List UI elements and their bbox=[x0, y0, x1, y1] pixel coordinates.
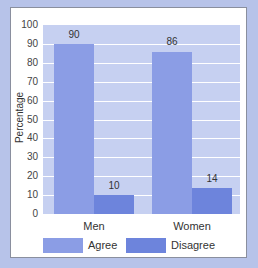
y-tick-50: 50 bbox=[14, 114, 38, 125]
y-tick-30: 30 bbox=[14, 151, 38, 162]
bar-men-disagree bbox=[94, 195, 134, 214]
label-women-disagree: 14 bbox=[192, 173, 232, 184]
bar-men-agree bbox=[54, 44, 94, 214]
y-tick-20: 20 bbox=[14, 170, 38, 181]
legend-label-disagree: Disagree bbox=[171, 239, 215, 251]
label-men-agree: 90 bbox=[54, 29, 94, 40]
y-tick-80: 80 bbox=[14, 57, 38, 68]
legend-swatch-disagree bbox=[126, 238, 166, 253]
x-tick-women: Women bbox=[162, 220, 222, 232]
label-men-disagree: 10 bbox=[94, 180, 134, 191]
y-tick-70: 70 bbox=[14, 76, 38, 87]
plot-area: 90 10 86 14 bbox=[43, 25, 240, 214]
y-tick-60: 60 bbox=[14, 95, 38, 106]
y-tick-90: 90 bbox=[14, 38, 38, 49]
bar-women-agree bbox=[152, 52, 192, 215]
y-tick-0: 0 bbox=[14, 208, 38, 219]
bar-women-disagree bbox=[192, 188, 232, 215]
y-tick-40: 40 bbox=[14, 132, 38, 143]
label-women-agree: 86 bbox=[152, 36, 192, 47]
legend-label-agree: Agree bbox=[88, 239, 117, 251]
x-tick-men: Men bbox=[64, 220, 124, 232]
y-tick-10: 10 bbox=[14, 189, 38, 200]
legend-swatch-agree bbox=[43, 238, 83, 253]
y-tick-100: 100 bbox=[14, 19, 38, 30]
